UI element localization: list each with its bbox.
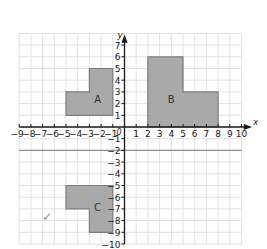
shape-label-a: A <box>94 94 101 105</box>
x-tick-label: 6 <box>192 129 198 139</box>
x-tick-label: 5 <box>180 129 186 139</box>
x-tick-label: 3 <box>157 129 163 139</box>
x-tick-label: 4 <box>168 129 174 139</box>
y-tick-label: −6 <box>107 193 121 203</box>
y-tick-label: −2 <box>107 146 120 156</box>
x-tick-label: 9 <box>227 129 233 139</box>
y-tick-label: −3 <box>107 158 120 168</box>
y-tick-label: −7 <box>107 204 120 214</box>
y-tick-label: 6 <box>115 52 121 62</box>
y-tick-label: −8 <box>107 216 121 226</box>
x-tick-label: 8 <box>215 129 221 139</box>
y-axis-label: y <box>117 30 124 40</box>
shape-a <box>66 69 113 116</box>
x-tick-label: 7 <box>204 129 210 139</box>
check-mark-icon: ✓ <box>42 210 52 224</box>
y-tick-label: 1 <box>115 111 121 121</box>
y-tick-label: 4 <box>115 76 121 86</box>
y-tick-label: −5 <box>107 181 120 191</box>
x-tick-label: 10 <box>236 129 248 139</box>
origin-label: 0 <box>116 128 121 137</box>
shapes-layer: ABC <box>66 57 218 233</box>
x-tick-label: 1 <box>133 129 139 139</box>
shape-c <box>66 186 113 233</box>
y-tick-label: 7 <box>115 41 121 51</box>
shape-label-b: B <box>168 94 175 105</box>
y-tick-label: 3 <box>115 87 121 97</box>
x-axis-label: x <box>252 118 258 127</box>
shape-label-c: C <box>94 202 101 213</box>
y-tick-label: 5 <box>115 64 121 74</box>
y-tick-label: −9 <box>107 228 121 238</box>
shape-b <box>148 57 218 127</box>
y-tick-label: −10 <box>102 240 121 249</box>
y-tick-label: 2 <box>115 99 121 109</box>
coordinate-grid-diagram: ABC −9−8−7−6−5−4−3−2−1123456789107654321… <box>0 0 267 249</box>
x-tick-label: 2 <box>145 129 151 139</box>
y-tick-label: −4 <box>107 169 121 179</box>
grid-canvas: ABC −9−8−7−6−5−4−3−2−1123456789107654321… <box>0 0 267 249</box>
